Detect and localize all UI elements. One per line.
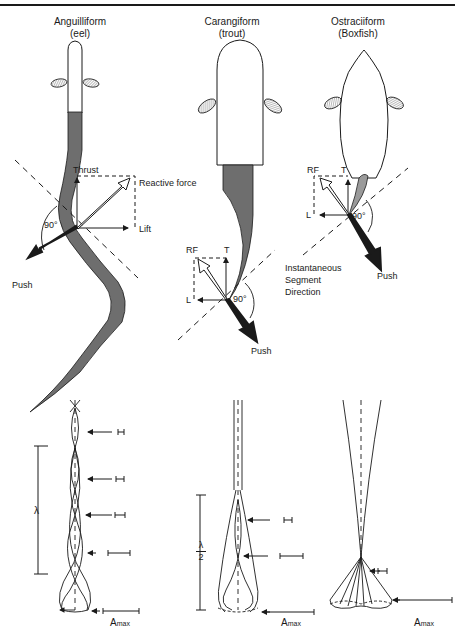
fraction-numerator: λ <box>196 540 206 551</box>
label-reactive-force: Reactive force <box>139 178 197 189</box>
fraction-denominator: 2 <box>196 551 206 563</box>
label-wavelength: λ <box>34 505 39 516</box>
eel-amplitude-markers <box>34 429 139 614</box>
boxfish-amplitude-markers <box>370 568 452 603</box>
pectoral-fin-icon <box>82 78 99 89</box>
segment-direction-note: Instantaneous Segment Direction <box>285 262 342 298</box>
trout-wave-envelope <box>218 400 258 612</box>
label-angle: 90° <box>233 294 247 305</box>
label-angle: 90° <box>44 220 58 231</box>
label-amax: Amax <box>414 617 434 629</box>
note-line: Instantaneous <box>285 262 342 274</box>
trout-force-diagram <box>178 250 275 342</box>
label-rf: RF <box>186 245 198 256</box>
eel-wave-envelope <box>59 400 90 612</box>
pectoral-fin-icon <box>262 96 284 116</box>
amax-subscript: max <box>117 620 130 627</box>
trout-amplitude-markers <box>196 495 314 615</box>
label-t: T <box>341 165 347 176</box>
amax-symbol: A <box>281 617 288 628</box>
label-angle: 90° <box>352 211 366 222</box>
label-l: L <box>186 295 191 306</box>
amax-subscript: max <box>288 620 301 627</box>
diagram-canvas <box>0 0 459 631</box>
label-amax: Amax <box>110 617 130 629</box>
pectoral-fin-icon <box>50 78 67 89</box>
label-l: L <box>306 210 311 221</box>
amax-subscript: max <box>421 620 434 627</box>
label-t: T <box>224 245 230 256</box>
label-push: Push <box>251 346 272 357</box>
label-thrust: Thrust <box>73 165 99 176</box>
note-line: Segment <box>285 274 342 286</box>
label-amax: Amax <box>281 617 301 629</box>
boxfish-wave-envelope <box>330 400 392 608</box>
label-half-wavelength: λ 2 <box>196 540 206 563</box>
amax-symbol: A <box>414 617 421 628</box>
label-rf: RF <box>307 165 319 176</box>
pectoral-fin-icon <box>196 96 218 116</box>
label-push: Push <box>377 271 398 282</box>
amax-symbol: A <box>110 617 117 628</box>
trout-figure <box>196 40 284 300</box>
label-lift: Lift <box>139 224 151 235</box>
note-line: Direction <box>285 286 342 298</box>
label-push: Push <box>12 280 33 291</box>
boxfish-figure <box>323 50 406 215</box>
